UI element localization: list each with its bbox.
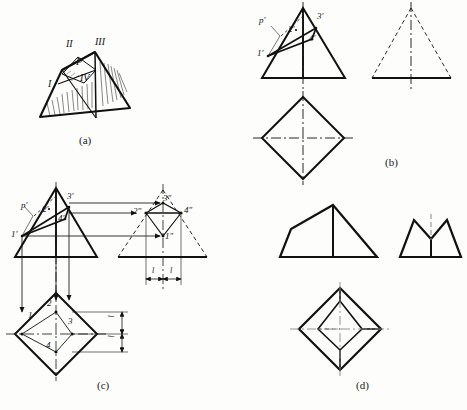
d-front-view bbox=[280, 205, 377, 257]
b-top-view bbox=[253, 91, 353, 185]
hatch-right bbox=[100, 62, 127, 106]
label-b-4-prime: 4′ bbox=[309, 33, 315, 43]
label-c-1-prime: 1′ bbox=[11, 229, 17, 239]
label-c-2-prime: 2′ bbox=[42, 204, 48, 214]
label-c-1: 1 bbox=[28, 310, 33, 320]
label-c-3-dprime: 3″ bbox=[163, 193, 171, 203]
dimension-label-l-side-1: l bbox=[152, 266, 154, 275]
caption-b: (b) bbox=[385, 156, 398, 168]
label-c-2: 2 bbox=[47, 298, 52, 308]
label-c-2-dprime: 2″ bbox=[133, 206, 141, 216]
label-c-4-prime: 4′ bbox=[58, 213, 64, 223]
caption-d: (d) bbox=[356, 379, 369, 391]
label-c-3-prime: 3′ bbox=[67, 191, 73, 201]
label-b-3-prime: 3′ bbox=[317, 11, 323, 21]
d-top-view bbox=[290, 282, 392, 376]
label-c-1-dprime: 1″ bbox=[165, 231, 173, 241]
panel-a-pictorial bbox=[40, 52, 130, 118]
label-c-p-prime: p′ bbox=[21, 200, 27, 210]
caption-c: (c) bbox=[97, 379, 109, 391]
dimension-label-l-top-1: l bbox=[107, 315, 116, 317]
label-c-4: 4 bbox=[46, 340, 51, 350]
caption-a: (a) bbox=[79, 134, 91, 146]
b-side-view bbox=[372, 2, 451, 90]
panel-d bbox=[280, 205, 461, 376]
label-face-II: II bbox=[66, 38, 73, 49]
label-c-3: 3 bbox=[68, 316, 73, 326]
panel-b bbox=[253, 2, 451, 185]
drawing-canvas bbox=[0, 0, 467, 410]
label-b-2-prime: 2′ bbox=[288, 24, 294, 34]
label-face-III: III bbox=[95, 36, 105, 47]
label-face-IV: IV bbox=[80, 72, 89, 83]
dimension-label-l-top-2: l bbox=[107, 335, 116, 337]
panel-c bbox=[6, 182, 207, 381]
label-b-1-prime: 1′ bbox=[257, 48, 263, 58]
c-top-view bbox=[6, 287, 128, 381]
engineering-drawing-figure: II III P IV I p′ 2′ 3′ 4′ 1′ p′ 2′ 3′ 4′… bbox=[0, 0, 467, 410]
label-face-I: I bbox=[48, 78, 51, 89]
label-c-4-dprime: 4″ bbox=[184, 205, 192, 215]
b-front-view bbox=[262, 2, 345, 92]
dimension-label-l-side-2: l bbox=[170, 266, 172, 275]
label-b-p-prime: p′ bbox=[259, 15, 265, 25]
d-side-view bbox=[400, 214, 461, 257]
label-plane-P: P bbox=[76, 56, 82, 67]
